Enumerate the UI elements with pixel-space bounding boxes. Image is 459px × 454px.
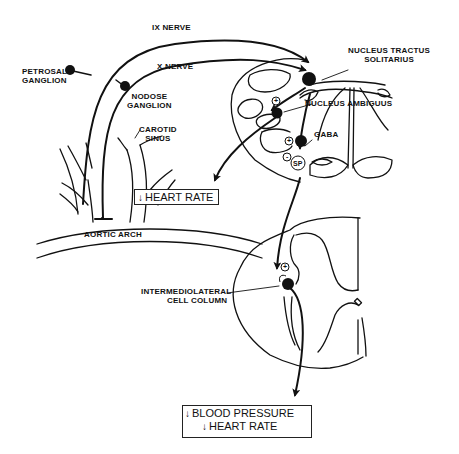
heart-rate-text-2: HEART RATE	[209, 420, 277, 432]
ix-nerve-label: IX NERVE	[152, 23, 191, 32]
final-output-box: ↓BLOOD PRESSURE ↓HEART RATE	[182, 405, 312, 438]
nodose-line1: NODOSE	[127, 92, 172, 101]
iml-neuron	[282, 278, 294, 290]
nodose-line2: GANGLION	[127, 101, 172, 110]
nts-label: NUCLEUS TRACTUS SOLITARIUS	[348, 46, 430, 64]
gaba-label: GABA	[314, 130, 338, 139]
heart-rate-text: HEART RATE	[145, 191, 213, 203]
nucleus-tractus-solitarius	[302, 72, 316, 86]
iml-line2: CELL COLUMN	[141, 296, 231, 305]
spinal-cord	[233, 217, 366, 368]
nodose-ganglion-label: NODOSE GANGLION	[127, 92, 172, 110]
iml-label: INTERMEDIOLATERAL CELL COLUMN	[141, 287, 231, 305]
baroreflex-diagram	[0, 0, 459, 454]
down-arrow-icon: ↓	[138, 191, 143, 205]
x-nerve-label: X NERVE	[157, 62, 193, 71]
down-arrow-icon: ↓	[185, 407, 190, 420]
heart-rate-output-box: ↓HEART RATE	[134, 189, 219, 205]
petrosal-line1: PETROSAL	[22, 67, 67, 76]
petrosal-ganglion-label: PETROSAL GANGLION	[22, 67, 67, 85]
iml-line1: INTERMEDIOLATERAL	[141, 287, 231, 296]
carotid-line2: SINUS	[139, 134, 177, 143]
sp-label: SP	[293, 159, 303, 168]
plus-sign-na: +	[274, 96, 278, 105]
down-arrow-icon: ↓	[202, 420, 207, 433]
plus-sign-iml: +	[283, 262, 287, 271]
aortic-arch-label: AORTIC ARCH	[84, 230, 142, 239]
nts-line1: NUCLEUS TRACTUS	[348, 46, 430, 55]
blood-pressure-text: BLOOD PRESSURE	[192, 407, 294, 419]
nodose-ganglion	[120, 81, 130, 91]
plus-sign-gaba: +	[287, 136, 291, 145]
carotid-sinus-label: CAROTID SINUS	[139, 125, 177, 143]
minus-sign-sp: -	[286, 152, 289, 161]
gaba-neuron	[295, 135, 307, 147]
nucleus-ambiguus	[272, 108, 283, 119]
nts-line2: SOLITARIUS	[348, 55, 430, 64]
nucleus-ambiguus-label: NUCLEUS AMBIGUUS	[305, 99, 392, 108]
carotid-line1: CAROTID	[139, 125, 177, 134]
petrosal-line2: GANGLION	[22, 76, 67, 85]
